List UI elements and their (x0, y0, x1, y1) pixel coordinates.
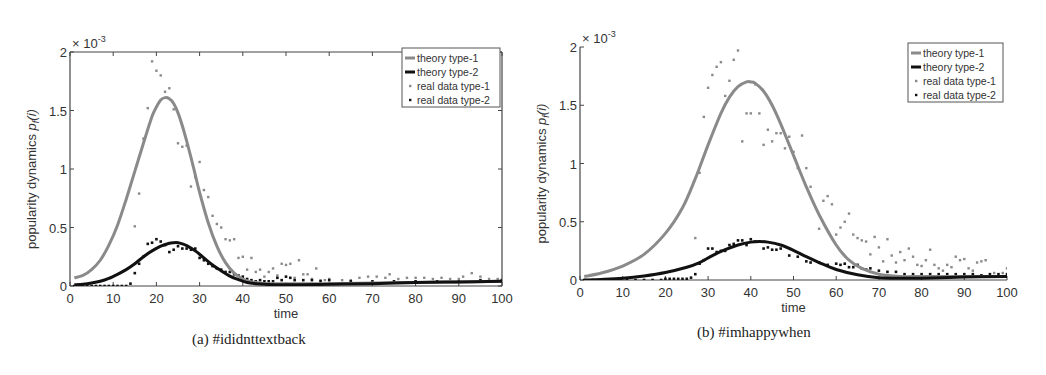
data-point (146, 243, 149, 246)
y-tick-label: 2 (570, 40, 577, 55)
data-point (384, 277, 386, 279)
line-theory-type-2 (584, 242, 1007, 280)
data-point (376, 275, 378, 277)
data-point (255, 271, 257, 273)
data-point (843, 262, 846, 265)
data-point (660, 279, 663, 282)
data-point (788, 136, 790, 138)
data-point (471, 272, 473, 274)
legend-label: theory type-2 (923, 61, 984, 73)
data-point (90, 285, 93, 288)
data-point (462, 275, 464, 277)
x-tick-label: 40 (744, 285, 758, 300)
x-tick-label: 10 (106, 291, 120, 306)
y-tick-label: 0 (60, 279, 67, 294)
data-point (397, 278, 399, 280)
data-point (432, 278, 434, 280)
data-point (767, 129, 769, 131)
data-point (276, 274, 278, 276)
y-axis-label: popularity dynamics pf(i) (24, 109, 41, 249)
data-point (984, 259, 986, 261)
legend-label: real data type-1 (923, 75, 996, 87)
legend-label: theory type-1 (923, 47, 984, 59)
data-point (762, 247, 765, 250)
y-tick-label: 1 (570, 157, 577, 172)
legend: theory type-1theory type-2real data type… (908, 43, 1003, 102)
data-point (496, 278, 498, 280)
data-point (108, 285, 111, 288)
data-point (822, 200, 824, 202)
data-point (805, 167, 807, 169)
y-tick-label: 0 (570, 273, 577, 288)
data-point (728, 80, 730, 82)
data-point (809, 261, 812, 264)
data-point (289, 277, 292, 280)
legend-marker-swatch (409, 85, 411, 87)
y-multiplier-exponent: -3 (608, 29, 616, 39)
data-point (835, 233, 837, 235)
y-tick-label: 1 (60, 162, 67, 177)
data-point (959, 259, 961, 261)
x-tick-label: 30 (701, 285, 715, 300)
data-point (920, 265, 922, 267)
data-point (908, 247, 910, 249)
data-point (852, 266, 855, 269)
data-point (895, 261, 897, 263)
data-point (963, 258, 965, 260)
data-point (147, 107, 149, 109)
x-tick-label: 70 (872, 285, 886, 300)
data-point (651, 279, 654, 282)
data-point (298, 259, 300, 261)
data-point (306, 273, 308, 275)
data-point (839, 226, 841, 228)
data-point (886, 271, 889, 274)
data-point (242, 256, 244, 258)
data-point (925, 259, 927, 261)
data-point (151, 241, 154, 244)
x-tick-label: 20 (658, 285, 672, 300)
data-point (844, 221, 846, 223)
data-point (285, 275, 288, 278)
data-point (276, 277, 279, 280)
data-point (358, 277, 360, 279)
data-point (263, 275, 265, 277)
data-point (664, 278, 667, 281)
legend-marker-swatch (409, 99, 411, 101)
data-point (707, 247, 710, 250)
x-tick-label: 80 (408, 291, 422, 306)
data-point (916, 264, 918, 266)
x-tick-label: 90 (957, 285, 971, 300)
data-point (771, 140, 773, 142)
data-point (737, 239, 740, 242)
x-tick-label: 0 (66, 291, 73, 306)
data-point (809, 186, 811, 188)
data-point (138, 192, 140, 194)
data-point (233, 238, 235, 240)
y-label-symbol: p (24, 123, 39, 131)
data-point (937, 267, 939, 269)
chart-b-plot: 010203040506070809010000.511.52× 10-3tim… (523, 0, 1046, 375)
x-tick-label: 20 (149, 291, 163, 306)
data-point (912, 256, 914, 258)
data-point (181, 247, 184, 250)
data-point (423, 277, 425, 279)
y-multiplier: × 10-3 (582, 29, 616, 46)
line-theory-type-1 (584, 82, 1007, 277)
legend: theory type-1theory type-2real data type… (402, 48, 500, 107)
data-point (172, 248, 175, 251)
data-point (878, 246, 880, 248)
data-point (903, 273, 906, 276)
chart-b-caption: (b) #imhappywhen (697, 324, 811, 341)
data-point (972, 269, 974, 271)
data-point (458, 278, 460, 280)
data-point (164, 91, 166, 93)
data-point (289, 263, 291, 265)
data-point (805, 260, 808, 263)
data-point (848, 266, 851, 269)
data-point (172, 108, 174, 110)
legend-marker-swatch (915, 94, 917, 96)
data-point (259, 279, 262, 282)
x-axis-label: time (274, 306, 299, 321)
data-point (703, 116, 705, 118)
data-point (668, 278, 671, 281)
